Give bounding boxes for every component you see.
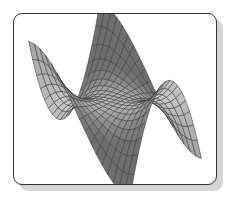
surface-plot-area xyxy=(14,14,216,184)
surface-mesh-svg xyxy=(14,14,216,184)
figure-root xyxy=(0,0,234,207)
mesh-facets xyxy=(29,14,202,184)
figure-panel xyxy=(13,13,217,185)
